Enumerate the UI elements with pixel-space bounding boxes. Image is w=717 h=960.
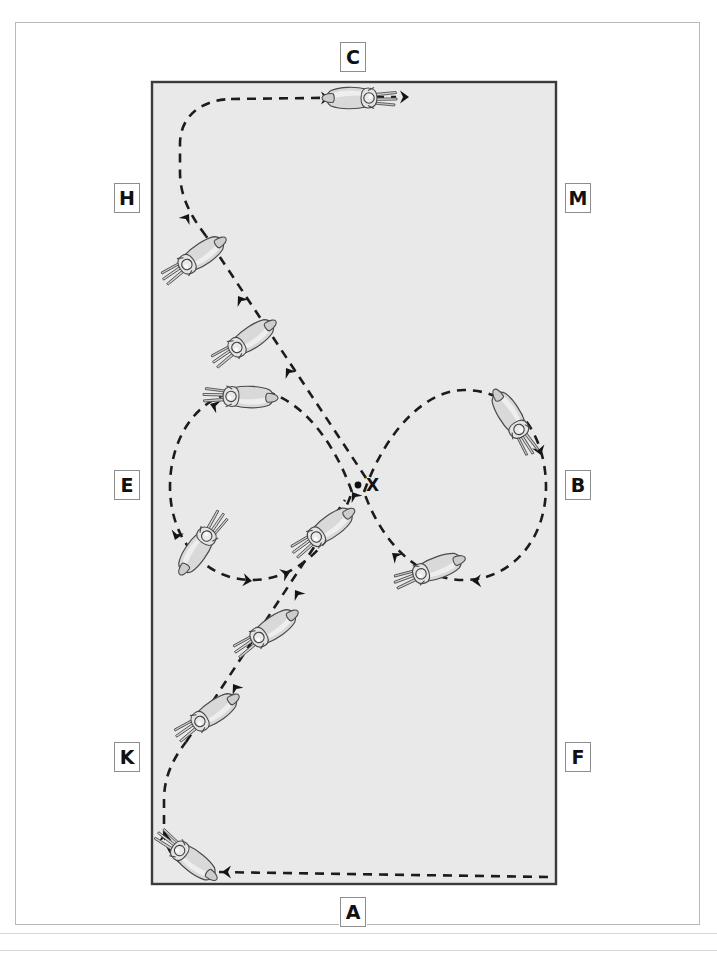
- marker-b[interactable]: B: [565, 470, 591, 500]
- marker-k[interactable]: K: [114, 742, 140, 772]
- marker-h[interactable]: H: [114, 183, 140, 213]
- marker-a[interactable]: A: [340, 897, 366, 927]
- dressage-figure: [0, 0, 717, 960]
- arena-rect: [152, 82, 556, 884]
- x-point-dot: [355, 482, 362, 489]
- marker-e[interactable]: E: [114, 470, 140, 500]
- marker-f[interactable]: F: [565, 742, 591, 772]
- scan-artifact-line-1: [0, 933, 717, 934]
- marker-c[interactable]: C: [340, 42, 366, 72]
- marker-m[interactable]: M: [565, 183, 591, 213]
- x-point-label: X: [366, 477, 379, 494]
- scan-artifact-line-2: [0, 950, 717, 951]
- page-root: X C M B F A K E H: [0, 0, 717, 960]
